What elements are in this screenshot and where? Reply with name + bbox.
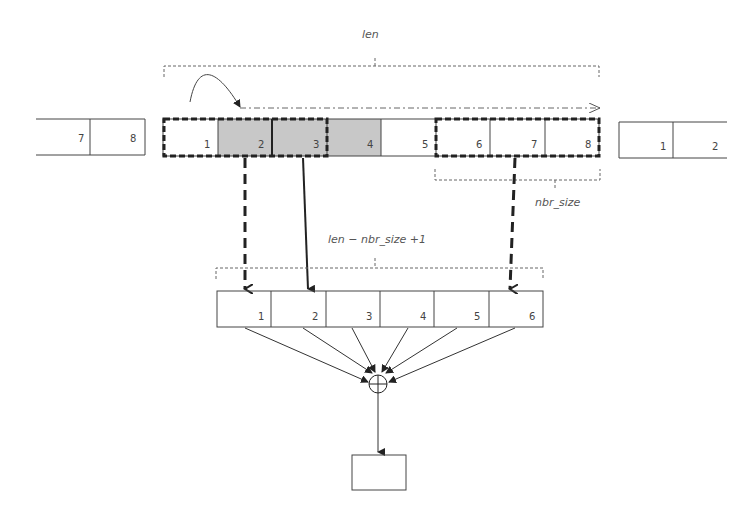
input-cell: 6 <box>476 139 482 150</box>
result-box <box>352 455 406 490</box>
output-cell: 4 <box>420 311 426 322</box>
input-row: 1 2 3 4 5 6 7 8 <box>163 119 599 156</box>
aggregation-arrows <box>245 328 515 382</box>
output-cell: 5 <box>474 311 480 322</box>
mapping-arrows <box>245 158 515 289</box>
input-cell: 8 <box>585 139 591 150</box>
output-cell: 1 <box>258 311 264 322</box>
output-cell: 2 <box>312 311 318 322</box>
input-cell: 3 <box>313 139 319 150</box>
input-cell: 5 <box>422 139 428 150</box>
input-cell: 7 <box>531 139 537 150</box>
output-cell: 3 <box>366 311 372 322</box>
output-cell: 6 <box>529 311 535 322</box>
window-highlight-6 <box>436 119 599 156</box>
output-count-brace <box>216 258 543 279</box>
right-wrap-cells: 1 2 <box>619 122 727 158</box>
sliding-window-diagram: len 7 8 1 2 3 <box>0 0 752 519</box>
right-wrap-cell: 1 <box>660 141 666 152</box>
output-row: 1 2 3 4 5 6 <box>217 291 543 327</box>
sum-operator-icon <box>369 375 387 393</box>
nbr-size-brace <box>435 169 600 190</box>
nbr-size-label: nbr_size <box>535 196 581 209</box>
left-wrap-cell: 8 <box>130 133 136 144</box>
len-brace <box>164 58 599 77</box>
input-cell: 1 <box>204 139 210 150</box>
left-wrap-cell: 7 <box>78 133 84 144</box>
right-wrap-cell: 2 <box>712 141 718 152</box>
input-cell: 2 <box>258 139 264 150</box>
left-wrap-cells: 7 8 <box>36 119 145 155</box>
input-cell: 4 <box>367 139 373 150</box>
len-label: len <box>362 28 379 41</box>
window-slide-arrow <box>190 75 600 108</box>
output-count-label: len − nbr_size +1 <box>328 233 426 246</box>
